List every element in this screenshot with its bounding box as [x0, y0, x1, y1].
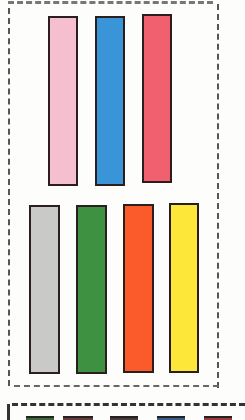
top-strip-red [142, 14, 172, 183]
second-panel-swatch [63, 416, 93, 420]
bottom-strip-yellow [169, 203, 199, 373]
bottom-strip-orange [123, 204, 154, 373]
second-panel-swatch [204, 416, 232, 420]
panel-left-border [8, 8, 10, 386]
top-strip-blue [95, 16, 125, 186]
panel-right-border [217, 4, 219, 388]
second-panel-swatch [26, 416, 54, 420]
second-panel-swatch [110, 416, 138, 420]
bottom-strip-gray [29, 205, 60, 374]
bottom-strip-green [76, 205, 107, 374]
panel-bottom-border [14, 385, 219, 387]
second-panel-left-border [7, 404, 10, 420]
panel-top-border [8, 1, 213, 4]
second-panel-swatch [157, 416, 185, 420]
top-strip-pink [48, 16, 78, 186]
second-panel-top-border [12, 403, 245, 406]
